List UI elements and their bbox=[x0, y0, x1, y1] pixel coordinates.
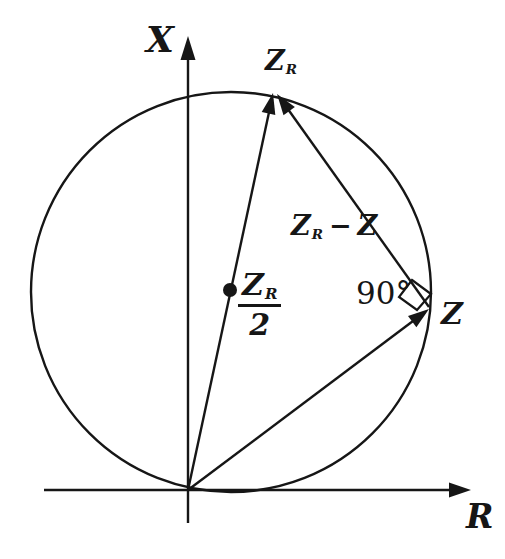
zr-minus-z-label: ZR−Z bbox=[291, 212, 377, 239]
center-fraction-numerator: ZR bbox=[238, 270, 281, 307]
center-fraction-num-base: Z bbox=[242, 267, 264, 302]
x-axis-arrowhead bbox=[181, 36, 196, 60]
zr-label: ZR bbox=[265, 47, 297, 74]
r-axis-label: R bbox=[466, 500, 493, 533]
zr-minus-z-label-sub: R bbox=[312, 226, 323, 242]
impedance-circle-diagram: X ZR ZR−Z ZR 2 90° Z R bbox=[0, 0, 505, 559]
zr-label-base: Z bbox=[265, 45, 285, 76]
center-fraction-denominator: 2 bbox=[238, 307, 281, 340]
zr-minus-z-label-z: Z bbox=[358, 210, 378, 241]
center-fraction-label: ZR 2 bbox=[238, 270, 281, 340]
circle-center-dot bbox=[223, 283, 237, 297]
z-vector-arrowhead bbox=[408, 309, 429, 327]
r-axis-arrowhead bbox=[449, 483, 471, 498]
right-angle-label: 90° bbox=[356, 278, 411, 309]
zr-minus-z-arrowhead bbox=[277, 94, 295, 115]
z-vector-line bbox=[188, 312, 425, 490]
zr-minus-z-label-base: Z bbox=[291, 210, 311, 241]
x-axis-label: X bbox=[146, 21, 174, 57]
center-fraction-num-sub: R bbox=[265, 285, 277, 303]
zr-label-sub: R bbox=[286, 61, 297, 77]
zr-minus-z-label-minus: − bbox=[329, 210, 352, 241]
z-label: Z bbox=[441, 299, 463, 329]
